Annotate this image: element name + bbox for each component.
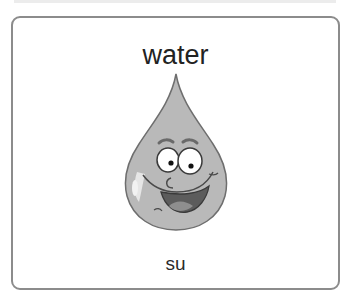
card-word: water [13, 40, 338, 70]
flashcard[interactable]: water su [11, 16, 340, 290]
water-drop-cartoon-icon [121, 72, 231, 234]
card-translation: su [13, 253, 338, 275]
top-divider [14, 0, 336, 3]
